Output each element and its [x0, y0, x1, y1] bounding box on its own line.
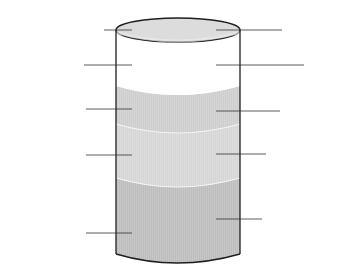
cylinder-diagram [0, 0, 351, 272]
